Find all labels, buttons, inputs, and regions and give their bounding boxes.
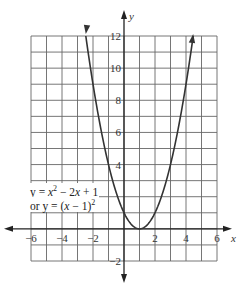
parabola-graph: −6−4−2246−24681012 x y	[0, 0, 248, 293]
svg-text:−2: −2	[87, 232, 99, 244]
svg-text:−2: −2	[109, 255, 121, 267]
svg-text:4: 4	[116, 159, 122, 171]
equation-label-2: or y = (x − 1)2	[29, 197, 96, 212]
y-axis-label: y	[128, 10, 134, 22]
svg-text:8: 8	[116, 94, 122, 106]
equation-label-1: y = x2 − 2x + 1	[29, 183, 99, 198]
svg-text:6: 6	[116, 126, 122, 138]
axes	[4, 10, 232, 283]
svg-text:6: 6	[214, 232, 220, 244]
svg-text:12: 12	[110, 30, 121, 42]
svg-text:−4: −4	[56, 232, 68, 244]
x-axis-label: x	[230, 232, 236, 244]
svg-text:−6: −6	[25, 232, 37, 244]
svg-text:2: 2	[152, 232, 158, 244]
svg-text:10: 10	[110, 62, 122, 74]
svg-text:4: 4	[183, 232, 189, 244]
